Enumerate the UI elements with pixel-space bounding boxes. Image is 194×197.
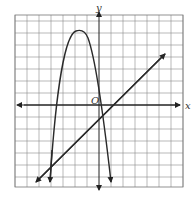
coordinate-plane: y x O <box>0 0 194 197</box>
origin-label: O <box>91 95 99 106</box>
y-axis-label: y <box>95 2 102 13</box>
x-axis-label: x <box>185 100 191 111</box>
